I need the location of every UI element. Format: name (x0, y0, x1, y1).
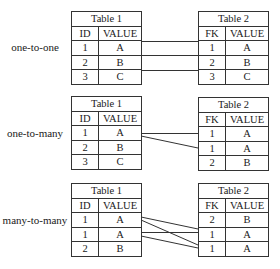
section-label-one-to-one: one-to-one (0, 41, 70, 53)
cell: A (99, 213, 142, 228)
cell: 2 (199, 55, 226, 70)
table-row: 2B (199, 213, 269, 228)
cell: 2 (72, 55, 99, 70)
cell: B (226, 55, 269, 70)
cell: C (226, 70, 269, 85)
table-row: 2B (72, 55, 142, 70)
table-title: Table 1 (72, 184, 142, 199)
cell: B (226, 213, 269, 228)
cell: 1 (72, 41, 99, 56)
cell: A (226, 141, 269, 156)
cell: 1 (199, 242, 226, 257)
cell: 3 (199, 70, 226, 85)
table-row: 1A (72, 227, 142, 242)
table-row: 1A (199, 127, 269, 142)
table-title: Table 2 (199, 12, 269, 27)
table-row: 2B (72, 140, 142, 155)
cell: A (226, 242, 269, 257)
cell: B (99, 140, 142, 155)
section-label-one-to-many: one-to-many (0, 127, 70, 139)
column-header: ID (72, 26, 99, 41)
connector-line (141, 136, 198, 148)
table1-many-to-many: Table 1 IDVALUE 1A 1A 2B (71, 183, 142, 257)
cell: 2 (199, 156, 226, 171)
table1-one-to-many: Table 1 IDVALUE 1A 2B 3C (71, 96, 142, 170)
cell: B (226, 156, 269, 171)
table-row: 3C (72, 70, 142, 85)
cell: 1 (199, 141, 226, 156)
column-header: FK (199, 26, 226, 41)
table2-one-to-one: Table 2 FKVALUE 1A 2B 3C (198, 11, 269, 85)
cell: 2 (199, 213, 226, 228)
column-header: VALUE (226, 112, 269, 127)
cell: B (99, 55, 142, 70)
cell: A (99, 41, 142, 56)
table-title: Table 1 (72, 12, 142, 27)
column-header: FK (199, 112, 226, 127)
table-row: 1A (199, 242, 269, 257)
cell: 1 (72, 227, 99, 242)
table-row: 2B (199, 55, 269, 70)
cell: 1 (72, 126, 99, 141)
table-row: 2B (72, 242, 142, 257)
column-header: ID (72, 111, 99, 126)
table-row: 1A (199, 41, 269, 56)
table-row: 2B (199, 156, 269, 171)
column-header: ID (72, 198, 99, 213)
connector-line (141, 236, 198, 248)
column-header: VALUE (226, 26, 269, 41)
table-row: 1A (72, 41, 142, 56)
table-row: 1A (72, 126, 142, 141)
column-header: VALUE (226, 198, 269, 213)
table-row: 3C (199, 70, 269, 85)
cell: 1 (199, 41, 226, 56)
cell: 1 (199, 227, 226, 242)
cell: 1 (199, 127, 226, 142)
cell: 3 (72, 70, 99, 85)
table-row: 1A (199, 227, 269, 242)
table-row: 3C (72, 155, 142, 170)
table-row: 1A (199, 141, 269, 156)
cell: 3 (72, 155, 99, 170)
table1-one-to-one: Table 1 IDVALUE 1A 2B 3C (71, 11, 142, 85)
section-label-many-to-many: many-to-many (0, 214, 70, 226)
table-row: 1A (72, 213, 142, 228)
cell: 2 (72, 242, 99, 257)
column-header: VALUE (99, 111, 142, 126)
cell: A (226, 41, 269, 56)
cell: C (99, 155, 142, 170)
cell: A (226, 227, 269, 242)
cell: 1 (72, 213, 99, 228)
connector-line (141, 217, 198, 229)
cell: A (99, 126, 142, 141)
table-title: Table 2 (199, 184, 269, 199)
column-header: FK (199, 198, 226, 213)
cell: B (99, 242, 142, 257)
table2-many-to-many: Table 2 FKVALUE 2B 1A 1A (198, 183, 269, 257)
column-header: VALUE (99, 198, 142, 213)
table2-one-to-many: Table 2 FKVALUE 1A 1A 2B (198, 97, 269, 171)
table-title: Table 2 (199, 98, 269, 113)
cell: A (99, 227, 142, 242)
cell: C (99, 70, 142, 85)
column-header: VALUE (99, 26, 142, 41)
connector-line (141, 220, 198, 245)
table-title: Table 1 (72, 97, 142, 112)
cell: 2 (72, 140, 99, 155)
cell: A (226, 127, 269, 142)
